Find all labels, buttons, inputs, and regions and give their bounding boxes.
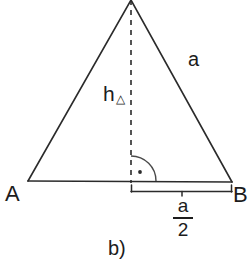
fraction-denominator: 2 — [172, 220, 194, 240]
right-angle-arc-icon — [131, 156, 156, 181]
height-label: h △ — [103, 83, 125, 104]
figure-drawing — [0, 0, 251, 264]
vertex-label-b: B — [233, 184, 248, 206]
right-angle-dot-icon — [138, 170, 142, 174]
triangle-base — [28, 181, 232, 182]
fraction-numerator: a — [172, 196, 194, 216]
side-length-label-a: a — [188, 49, 199, 69]
geometry-figure: A B a h △ a 2 b) — [0, 0, 251, 264]
height-label-base: h — [103, 83, 115, 104]
triangle-right-side — [131, 0, 232, 182]
half-base-fraction-label: a 2 — [172, 196, 194, 240]
figure-caption: b) — [108, 238, 126, 258]
vertex-label-a: A — [5, 183, 20, 205]
height-label-subscript: △ — [116, 93, 125, 105]
